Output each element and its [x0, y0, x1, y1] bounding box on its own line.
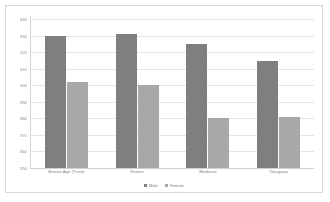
y-tick-label: 360	[20, 149, 27, 154]
legend-item-male[interactable]: Male	[144, 183, 158, 188]
bar-male-2[interactable]	[186, 44, 207, 168]
category-group	[102, 16, 173, 168]
bar-female-3[interactable]	[279, 117, 300, 168]
category-group	[173, 16, 244, 168]
bar-male-3[interactable]	[257, 61, 278, 168]
category-label: Roman	[102, 169, 173, 181]
bar-female-1[interactable]	[138, 85, 159, 168]
category-group	[31, 16, 102, 168]
legend-label: Male	[149, 183, 158, 188]
y-tick-label: 400	[20, 83, 27, 88]
plot-area: 440430420410400390380370360350	[30, 16, 314, 168]
bar-male-1[interactable]	[116, 34, 137, 168]
legend-item-female[interactable]: Female	[165, 183, 184, 188]
category-label: Medieval	[173, 169, 244, 181]
bars-layer	[31, 16, 314, 168]
y-tick-label: 370	[20, 132, 27, 137]
legend-label: Female	[170, 183, 184, 188]
y-tick-label: 440	[20, 17, 27, 22]
y-tick-label: 410	[20, 66, 27, 71]
y-tick-label: 380	[20, 116, 27, 121]
y-tick-label: 420	[20, 50, 27, 55]
category-label: Bronze Age (Trent)	[31, 169, 102, 181]
bar-male-0[interactable]	[45, 36, 66, 168]
x-axis-category-labels: Bronze Age (Trent)RomanMedievalTokugawa	[31, 169, 314, 181]
bar-female-2[interactable]	[208, 118, 229, 168]
bar-female-0[interactable]	[67, 82, 88, 168]
female-swatch-icon	[165, 184, 168, 187]
chart-legend: MaleFemale	[6, 183, 322, 188]
male-swatch-icon	[144, 184, 147, 187]
y-tick-label: 390	[20, 99, 27, 104]
category-label: Tokugawa	[243, 169, 314, 181]
category-group	[243, 16, 314, 168]
chart-card: 440430420410400390380370360350 Bronze Ag…	[5, 5, 323, 193]
y-tick-label: 350	[20, 166, 27, 171]
y-tick-label: 430	[20, 33, 27, 38]
